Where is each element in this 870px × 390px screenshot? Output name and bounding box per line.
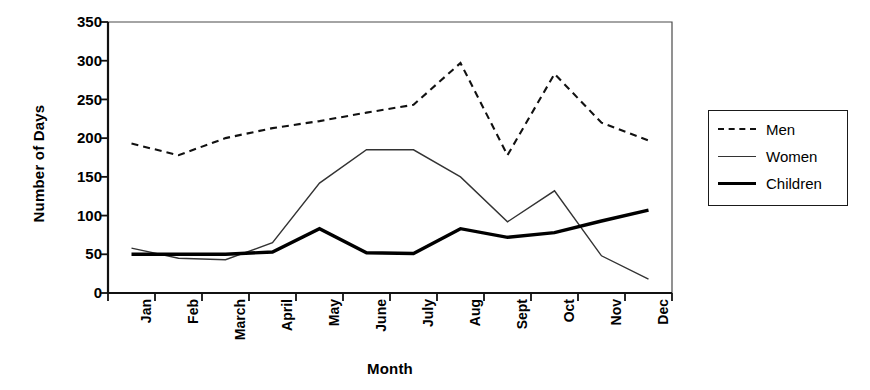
x-tick-label: April [279, 299, 295, 331]
legend-item-women: Women [718, 146, 844, 168]
x-tick-label: Dec [655, 299, 671, 325]
x-axis-title: Month [108, 360, 672, 377]
chart-legend: Men Women Children [708, 110, 848, 206]
x-tick-label: Nov [608, 299, 624, 325]
x-tick-oct: Oct [531, 297, 578, 355]
x-tick-june: June [343, 297, 390, 355]
x-tick-feb: Feb [155, 297, 202, 355]
x-tick-label: Oct [561, 299, 577, 322]
x-tick-label: Feb [185, 299, 201, 324]
x-tick-july: July [390, 297, 437, 355]
x-tick-dec: Dec [625, 297, 672, 355]
series-line-women [132, 150, 649, 279]
x-tick-label: March [232, 299, 248, 340]
x-tick-sept: Sept [484, 297, 531, 355]
x-tick-label: Sept [514, 299, 530, 329]
x-tick-label: Aug [467, 299, 483, 326]
legend-item-children: Children [718, 173, 844, 195]
series-line-men [132, 63, 649, 155]
x-tick-march: March [202, 297, 249, 355]
x-tick-may: May [296, 297, 343, 355]
line-chart-figure: Number of Days 350 300 250 200 150 100 5… [0, 0, 870, 390]
series-line-children [132, 210, 649, 254]
x-tick-nov: Nov [578, 297, 625, 355]
x-tick-label: May [326, 299, 342, 326]
x-tick-aug: Aug [437, 297, 484, 355]
x-tick-april: April [249, 297, 296, 355]
legend-label: Children [766, 173, 822, 195]
thick-line-icon [718, 182, 756, 185]
thin-line-icon [718, 156, 756, 157]
legend-label: Men [766, 119, 795, 141]
x-tick-label: July [420, 299, 436, 327]
dashed-line-icon [718, 128, 756, 130]
legend-item-men: Men [718, 119, 844, 141]
legend-label: Women [766, 146, 817, 168]
x-tick-label: Jan [138, 299, 154, 323]
x-axis-tick-labels: Jan Feb March April May June July Aug Se… [108, 297, 672, 357]
x-tick-jan: Jan [108, 297, 155, 355]
x-tick-label: June [373, 299, 389, 332]
